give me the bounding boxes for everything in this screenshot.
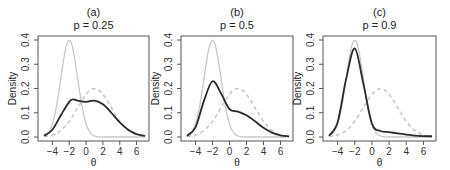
panel-subtitle: p = 0.25 [73, 19, 113, 31]
x-tick-label: 0 [369, 146, 375, 157]
density-chart-figure: (a)p = 0.250.00.10.20.30.4Density−4−2024… [0, 0, 450, 170]
x-tick-label: −4 [332, 146, 344, 157]
x-tick-label: 4 [117, 146, 123, 157]
y-axis-label: Density [292, 72, 303, 105]
y-tick-label: 0.4 [20, 33, 31, 47]
panel-a: (a)p = 0.250.00.10.20.30.4Density−4−2024… [7, 6, 149, 168]
panel-subtitle: p = 0.5 [220, 19, 254, 31]
x-tick-label: −2 [207, 146, 219, 157]
component-curve-dashed [44, 89, 145, 137]
component-curve-dashed [187, 89, 289, 137]
x-tick-label: 6 [421, 146, 427, 157]
y-tick-label: 0.3 [305, 57, 316, 71]
x-tick-label: 2 [244, 146, 250, 157]
x-tick-label: 6 [134, 146, 140, 157]
panel-title: (b) [230, 6, 243, 18]
x-tick-label: 2 [100, 146, 106, 157]
component-curve-dashed [329, 89, 432, 137]
panel-subtitle: p = 0.9 [363, 19, 397, 31]
y-tick-label: 0.2 [163, 81, 174, 95]
y-tick-label: 0.0 [20, 130, 31, 144]
y-tick-label: 0.3 [163, 57, 174, 71]
x-axis-label: θ [91, 157, 97, 168]
y-tick-label: 0.1 [163, 105, 174, 119]
panel-title: (a) [87, 6, 100, 18]
x-tick-label: 2 [386, 146, 392, 157]
y-tick-label: 0.3 [20, 57, 31, 71]
x-tick-label: 4 [261, 146, 267, 157]
x-axis-label: θ [377, 157, 383, 168]
y-tick-label: 0.4 [163, 33, 174, 47]
x-tick-label: 0 [83, 146, 89, 157]
x-tick-label: −4 [47, 146, 59, 157]
y-tick-label: 0.0 [163, 130, 174, 144]
x-tick-label: 4 [403, 146, 409, 157]
panel-c: (c)p = 0.90.00.10.20.30.4Density−4−20246… [292, 6, 436, 168]
mixture-density-curve [44, 99, 145, 135]
panel-title: (c) [373, 6, 386, 18]
y-axis-label: Density [150, 72, 161, 105]
x-axis-label: θ [234, 157, 240, 168]
y-tick-label: 0.1 [305, 105, 316, 119]
x-tick-label: −4 [190, 146, 202, 157]
y-tick-label: 0.1 [20, 105, 31, 119]
y-tick-label: 0.4 [305, 33, 316, 47]
y-tick-label: 0.0 [305, 130, 316, 144]
y-tick-label: 0.2 [20, 81, 31, 95]
y-tick-label: 0.2 [305, 81, 316, 95]
x-tick-label: 6 [278, 146, 284, 157]
x-tick-label: −2 [349, 146, 361, 157]
x-tick-label: −2 [64, 146, 76, 157]
y-axis-label: Density [7, 72, 18, 105]
x-tick-label: 0 [227, 146, 233, 157]
panel-b: (b)p = 0.50.00.10.20.30.4Density−4−20246… [150, 6, 293, 168]
